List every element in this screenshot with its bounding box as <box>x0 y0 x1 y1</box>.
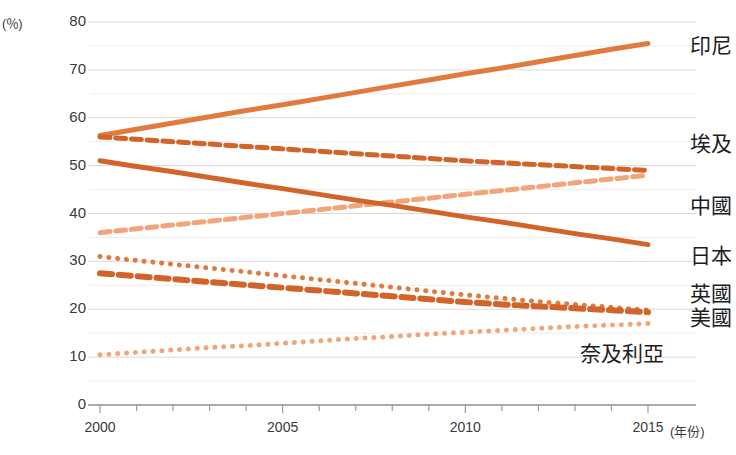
y-tick-label-80: 80 <box>42 12 86 29</box>
line-chart-plot <box>0 0 736 455</box>
series-label-日本: 日本 <box>690 239 732 269</box>
x-tick-label-2005: 2005 <box>248 419 318 435</box>
series-line-0[interactable] <box>100 44 648 136</box>
x-axis-unit-label: (年份) <box>670 421 705 440</box>
series-label-奈及利亞: 奈及利亞 <box>580 337 664 367</box>
y-tick-label-70: 70 <box>42 60 86 77</box>
y-tick-label-40: 40 <box>42 204 86 221</box>
y-tick-label-0: 0 <box>42 395 86 412</box>
series-line-5[interactable] <box>100 273 648 312</box>
series-line-3[interactable] <box>100 161 648 245</box>
chart-container: (％)010203040506070802000200520102015(年份)… <box>0 0 736 455</box>
x-tick-label-2000: 2000 <box>65 419 135 435</box>
y-tick-label-60: 60 <box>42 108 86 125</box>
series-label-印尼: 印尼 <box>690 29 732 59</box>
y-tick-label-50: 50 <box>42 156 86 173</box>
y-axis-unit-label: (％) <box>2 13 22 32</box>
series-label-埃及: 埃及 <box>690 127 732 157</box>
x-tick-label-2010: 2010 <box>430 419 500 435</box>
series-line-4[interactable] <box>100 257 648 311</box>
y-tick-label-10: 10 <box>42 347 86 364</box>
y-tick-label-20: 20 <box>42 299 86 316</box>
y-tick-label-30: 30 <box>42 251 86 268</box>
series-label-中國: 中國 <box>690 189 732 219</box>
series-line-6[interactable] <box>100 324 648 355</box>
series-label-美國: 美國 <box>690 301 732 331</box>
